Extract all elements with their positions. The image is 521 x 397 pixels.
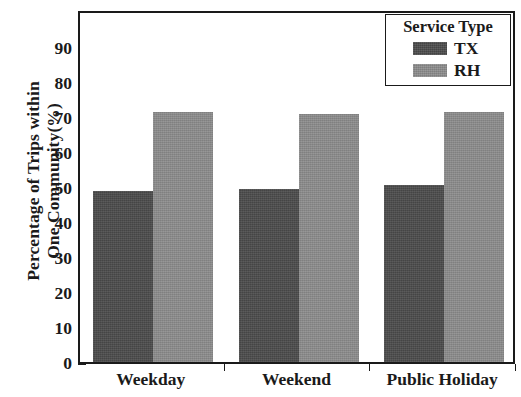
- legend-entry-tx: TX: [391, 38, 505, 59]
- bar-tx-weekend: [239, 189, 299, 362]
- legend-label: TX: [454, 40, 478, 58]
- legend-entries: TXRH: [391, 38, 505, 81]
- y-tick-label: 90: [32, 41, 72, 59]
- x-tick-mark: [515, 364, 516, 371]
- bar-tx-public-holiday: [384, 185, 444, 362]
- bar-chart: Percentage of Trips within One Community…: [0, 0, 521, 397]
- y-tick-label: 80: [32, 76, 72, 94]
- x-tick-mark: [369, 364, 370, 371]
- y-tick-label: 20: [32, 285, 72, 303]
- legend-title: Service Type: [391, 17, 505, 37]
- legend-swatch-icon: [413, 64, 447, 77]
- legend: Service Type TXRH: [385, 14, 511, 86]
- y-tick-label: 60: [32, 146, 72, 164]
- y-tick-label: 50: [32, 180, 72, 198]
- bar-rh-weekday: [153, 112, 213, 362]
- x-tick-label: Public Holiday: [386, 369, 497, 390]
- y-tick-mark: [78, 364, 86, 365]
- legend-entry-rh: RH: [391, 60, 505, 81]
- bar-rh-weekend: [299, 114, 359, 362]
- y-tick-label: 70: [32, 111, 72, 129]
- y-tick-label: 0: [32, 355, 72, 373]
- legend-label: RH: [454, 62, 480, 80]
- y-tick-label: 10: [32, 320, 72, 338]
- legend-swatch-icon: [413, 42, 447, 55]
- x-tick-label: Weekday: [116, 369, 185, 390]
- bar-tx-weekday: [93, 191, 153, 362]
- x-tick-mark: [224, 364, 225, 371]
- y-tick-label: 30: [32, 250, 72, 268]
- y-tick-label: 40: [32, 215, 72, 233]
- x-tick-label: Weekend: [262, 369, 331, 390]
- bar-rh-public-holiday: [444, 112, 504, 362]
